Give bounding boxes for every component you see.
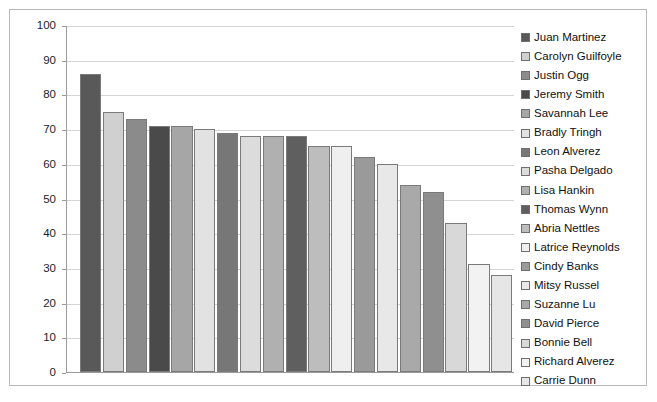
legend-swatch-icon	[521, 339, 530, 348]
bar[interactable]	[445, 223, 466, 372]
y-axis-tick-label: 80	[43, 90, 56, 102]
legend-swatch-icon	[521, 90, 530, 99]
bar[interactable]	[308, 146, 329, 372]
y-axis-tick-label: 0	[50, 367, 56, 379]
legend-swatch-icon	[521, 205, 530, 214]
legend-item[interactable]: Lisa Hankin	[521, 181, 647, 200]
legend-item[interactable]: Bradly Tringh	[521, 123, 647, 142]
y-axis-tick	[62, 373, 66, 374]
legend-item[interactable]: Carolyn Guilfoyle	[521, 47, 647, 66]
legend-item-label: Latrice Reynolds	[534, 242, 620, 254]
bar[interactable]	[354, 157, 375, 372]
legend-item[interactable]: Carrie Dunn	[521, 372, 647, 391]
legend-swatch-icon	[521, 377, 530, 386]
bar[interactable]	[103, 112, 124, 372]
legend-item-label: Mitsy Russel	[534, 280, 599, 292]
bar[interactable]	[80, 74, 101, 372]
legend-item-label: Pasha Delgado	[534, 165, 613, 177]
legend-item[interactable]: Bonnie Bell	[521, 334, 647, 353]
y-axis-tick-label: 70	[43, 124, 56, 136]
y-axis-tick-label: 20	[43, 298, 56, 310]
legend-item-label: Juan Martinez	[534, 32, 606, 44]
bar[interactable]	[331, 146, 352, 372]
legend-item[interactable]: Justin Ogg	[521, 66, 647, 85]
x-axis-line	[66, 372, 514, 373]
legend-item-label: Justin Ogg	[534, 70, 589, 82]
legend-swatch-icon	[521, 300, 530, 309]
legend-item[interactable]: Suzanne Lu	[521, 295, 647, 314]
legend-item-label: Bradly Tringh	[534, 127, 602, 139]
chart-frame: 1009080706050403020100 Juan MartinezCaro…	[9, 9, 647, 386]
y-axis-labels: 1009080706050403020100	[10, 26, 62, 373]
bar[interactable]	[171, 126, 192, 372]
legend-item-label: Carolyn Guilfoyle	[534, 51, 622, 63]
legend-swatch-icon	[521, 186, 530, 195]
legend-swatch-icon	[521, 71, 530, 80]
legend-item-label: Richard Alverez	[534, 356, 615, 368]
legend-item[interactable]: David Pierce	[521, 314, 647, 333]
bar[interactable]	[491, 275, 512, 372]
legend-swatch-icon	[521, 129, 530, 138]
legend-swatch-icon	[521, 243, 530, 252]
legend-item[interactable]: Mitsy Russel	[521, 276, 647, 295]
legend-swatch-icon	[521, 358, 530, 367]
legend-item[interactable]: Savannah Lee	[521, 104, 647, 123]
legend-item[interactable]: Abria Nettles	[521, 219, 647, 238]
legend-swatch-icon	[521, 224, 530, 233]
legend-item-label: Abria Nettles	[534, 223, 600, 235]
y-axis-tick-label: 40	[43, 228, 56, 240]
y-axis-tick-label: 10	[43, 333, 56, 345]
y-axis-tick-label: 50	[43, 194, 56, 206]
bar[interactable]	[194, 129, 215, 372]
bar[interactable]	[423, 192, 444, 372]
legend-item-label: Lisa Hankin	[534, 185, 594, 197]
legend-item[interactable]: Jeremy Smith	[521, 85, 647, 104]
bar[interactable]	[377, 164, 398, 372]
y-axis-tick-label: 60	[43, 159, 56, 171]
legend-item-label: Bonnie Bell	[534, 337, 592, 349]
y-axis-tick-label: 100	[37, 20, 56, 32]
y-axis-tick-label: 30	[43, 263, 56, 275]
bars-layer	[67, 26, 514, 372]
legend-swatch-icon	[521, 109, 530, 118]
legend-item[interactable]: Juan Martinez	[521, 28, 647, 47]
bar[interactable]	[240, 136, 261, 372]
legend-item[interactable]: Latrice Reynolds	[521, 238, 647, 257]
bar-chart: 1009080706050403020100 Juan MartinezCaro…	[0, 0, 657, 402]
legend-item-label: Carrie Dunn	[534, 375, 596, 387]
legend-swatch-icon	[521, 262, 530, 271]
bar[interactable]	[400, 185, 421, 372]
legend-swatch-icon	[521, 33, 530, 42]
legend-item-label: Savannah Lee	[534, 108, 608, 120]
bar[interactable]	[286, 136, 307, 372]
legend-item[interactable]: Pasha Delgado	[521, 162, 647, 181]
legend-swatch-icon	[521, 52, 530, 61]
legend-item[interactable]: Thomas Wynn	[521, 200, 647, 219]
legend-item[interactable]: Richard Alverez	[521, 353, 647, 372]
bar[interactable]	[468, 264, 489, 372]
legend-item-label: Thomas Wynn	[534, 204, 608, 216]
legend-item-label: Jeremy Smith	[534, 89, 604, 101]
legend-item-label: Leon Alverez	[534, 146, 601, 158]
plot-area	[66, 26, 514, 373]
bar[interactable]	[126, 119, 147, 372]
legend-item-label: David Pierce	[534, 318, 599, 330]
legend-item[interactable]: Cindy Banks	[521, 257, 647, 276]
legend-swatch-icon	[521, 319, 530, 328]
legend-swatch-icon	[521, 167, 530, 176]
bar[interactable]	[217, 133, 238, 372]
legend-item-label: Cindy Banks	[534, 261, 599, 273]
legend-swatch-icon	[521, 148, 530, 157]
chart-legend: Juan MartinezCarolyn GuilfoyleJustin Ogg…	[521, 28, 647, 391]
legend-item-label: Suzanne Lu	[534, 299, 595, 311]
bar[interactable]	[149, 126, 170, 372]
bar[interactable]	[263, 136, 284, 372]
y-axis-tick-label: 90	[43, 55, 56, 67]
legend-swatch-icon	[521, 281, 530, 290]
legend-item[interactable]: Leon Alverez	[521, 143, 647, 162]
